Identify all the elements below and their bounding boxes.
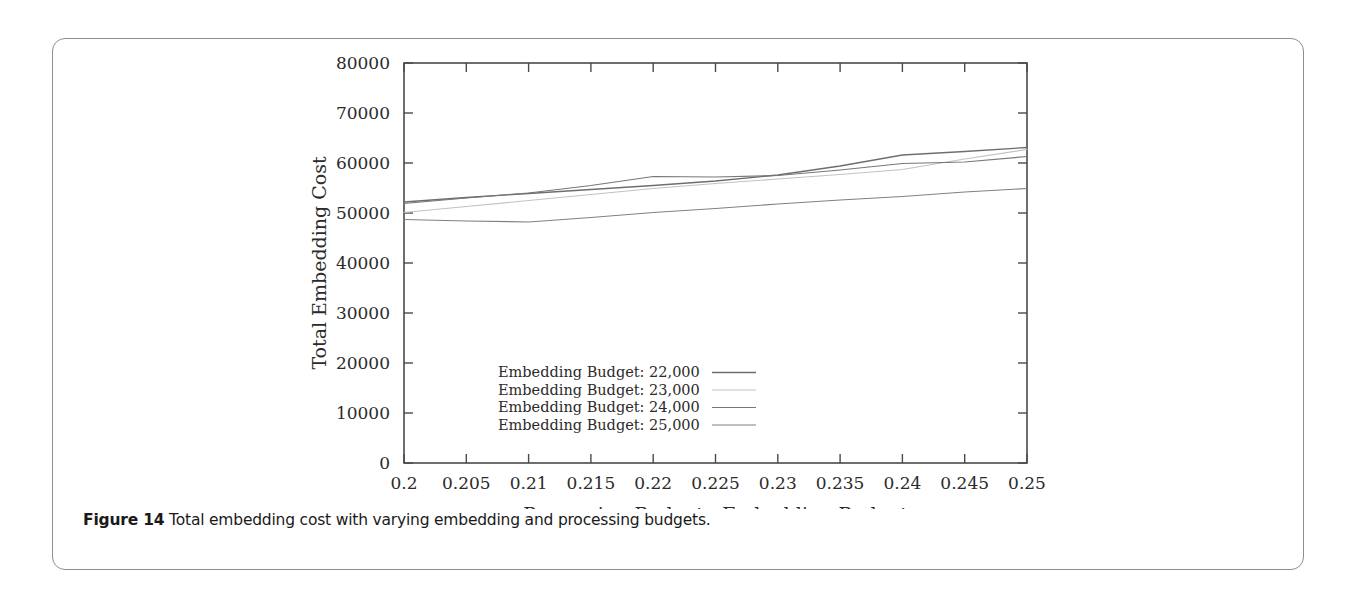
y-axis-title: Total Embedding Cost — [308, 156, 330, 370]
figure-card: 0100002000030000400005000060000700008000… — [52, 38, 1304, 570]
y-tick-label: 40000 — [336, 253, 390, 273]
legend-label-2: Embedding Budget: 24,000 — [498, 399, 700, 415]
y-tick-label: 20000 — [336, 353, 390, 373]
y-tick-label: 10000 — [336, 403, 390, 423]
y-tick-label: 80000 — [336, 53, 390, 73]
x-tick-label: 0.24 — [883, 473, 921, 493]
legend-label-1: Embedding Budget: 23,000 — [498, 382, 700, 398]
figure-caption: Figure 14 Total embedding cost with vary… — [83, 511, 1283, 529]
legend-label-0: Embedding Budget: 22,000 — [498, 364, 700, 380]
x-tick-label: 0.225 — [691, 473, 740, 493]
y-tick-label: 50000 — [336, 203, 390, 223]
line-chart: 0100002000030000400005000060000700008000… — [53, 39, 1305, 509]
figure-caption-label: Figure 14 — [83, 511, 164, 529]
chart-plot-area: 0100002000030000400005000060000700008000… — [53, 39, 1305, 509]
x-tick-label: 0.205 — [442, 473, 491, 493]
series-line-3 — [404, 189, 1027, 223]
x-tick-label: 0.22 — [634, 473, 672, 493]
x-tick-label: 0.235 — [816, 473, 865, 493]
x-tick-label: 0.2 — [390, 473, 417, 493]
x-axis-title: Processing Budget : Embedding Budget — [523, 503, 908, 509]
x-tick-label: 0.25 — [1008, 473, 1046, 493]
y-tick-label: 70000 — [336, 103, 390, 123]
x-tick-label: 0.21 — [510, 473, 548, 493]
y-tick-label: 30000 — [336, 303, 390, 323]
y-tick-label: 0 — [379, 453, 390, 473]
y-tick-label: 60000 — [336, 153, 390, 173]
series-line-2 — [404, 157, 1027, 204]
figure-caption-text: Total embedding cost with varying embedd… — [169, 511, 710, 529]
legend-label-3: Embedding Budget: 25,000 — [498, 417, 700, 433]
x-tick-label: 0.245 — [940, 473, 989, 493]
x-tick-label: 0.23 — [759, 473, 797, 493]
x-tick-label: 0.215 — [567, 473, 616, 493]
